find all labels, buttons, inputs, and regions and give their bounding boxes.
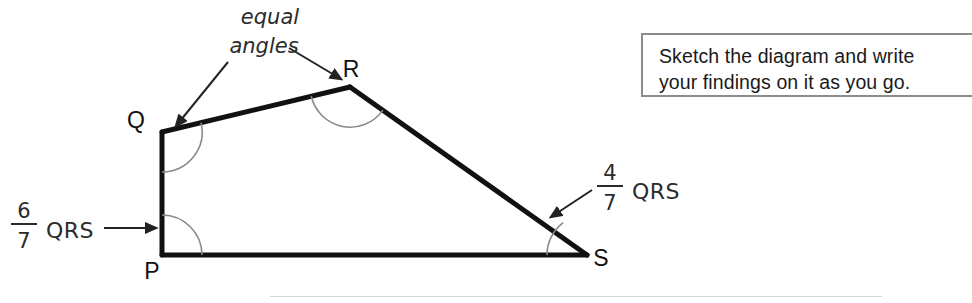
equal-angles-label-line1: equal xyxy=(241,5,299,29)
quadrilateral-outline xyxy=(162,87,587,255)
vertex-label-P: P xyxy=(144,258,159,284)
worksheet-page: P Q R S equal angles 6 7 QRS 4 7 QRS Ske… xyxy=(0,0,972,303)
left-fraction-denominator: 7 xyxy=(17,229,30,253)
edge-RS xyxy=(350,87,587,255)
right-fraction-subject: QRS xyxy=(632,179,680,204)
vertex-label-Q: Q xyxy=(127,107,145,133)
arrow-to-angle-S xyxy=(551,190,592,217)
vertex-label-S: S xyxy=(593,245,608,271)
arrow-to-angle-R xyxy=(289,48,341,79)
instruction-callout: Sketch the diagram and write your findin… xyxy=(641,33,972,97)
equal-angles-label-line2: angles xyxy=(229,34,298,58)
right-fraction-annotation: 4 7 QRS xyxy=(551,161,680,217)
vertex-label-R: R xyxy=(343,56,360,82)
instruction-line-2: your findings on it as you go. xyxy=(659,69,972,95)
instruction-line-1: Sketch the diagram and write xyxy=(659,43,972,69)
left-fraction-numerator: 6 xyxy=(17,199,30,223)
page-divider-rule xyxy=(270,296,882,297)
left-fraction-subject: QRS xyxy=(46,218,94,243)
right-fraction-numerator: 4 xyxy=(603,161,616,185)
left-fraction-annotation: 6 7 QRS xyxy=(11,199,156,253)
right-fraction-denominator: 7 xyxy=(603,191,616,215)
angle-arc-P xyxy=(162,215,202,255)
